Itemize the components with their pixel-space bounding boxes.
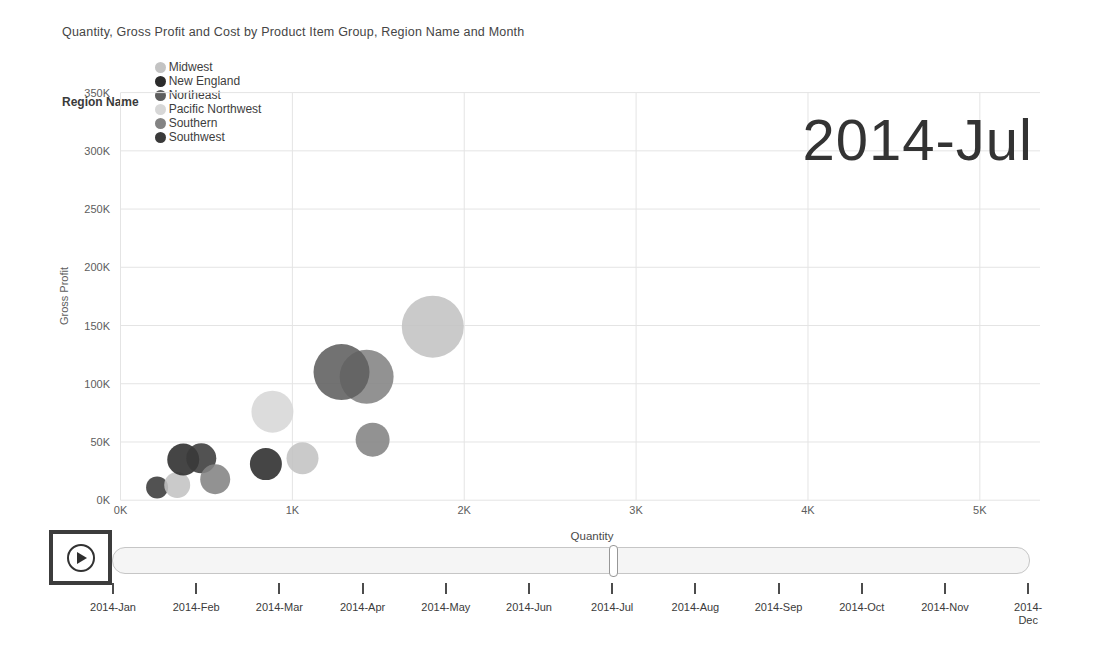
month-label-2014-apr: 2014-Apr [331,601,395,614]
bubble-pacific-northwest[interactable] [251,391,293,433]
month-label-2014-nov: 2014-Nov [913,601,977,614]
month-label-2014-aug: 2014-Aug [663,601,727,614]
month-label-2014-jul: 2014-Jul [580,601,644,614]
x-tick-label: 0K [114,504,128,516]
y-tick-label: 50K [90,436,110,448]
month-tick [362,583,364,594]
bubble-midwest[interactable] [287,442,319,474]
month-tick [195,583,197,594]
y-tick-label: 200K [84,261,110,273]
month-tick [694,583,696,594]
x-tick-label: 2K [458,504,472,516]
month-label-2014-jan: 2014-Jan [81,601,145,614]
y-axis-title: Gross Profit [58,267,70,325]
x-tick-label: 3K [629,504,643,516]
month-tick [861,583,863,594]
y-tick-label: 150K [84,320,110,332]
play-button[interactable] [49,530,112,585]
y-tick-label: 0K [97,494,111,506]
month-tick [611,583,613,594]
y-tick-label: 100K [84,378,110,390]
x-tick-label: 5K [973,504,987,516]
month-tick [1027,583,1029,594]
month-label-2014-feb: 2014-Feb [164,601,228,614]
x-axis-title: Quantity [571,530,614,542]
x-tick-label: 4K [801,504,815,516]
scatter-chart: 0K50K100K150K200K250K300K350K0K1K2K3K4K5… [0,0,1100,560]
month-tick [944,583,946,594]
bubble-southern[interactable] [200,464,230,494]
month-label-2014-sep: 2014-Sep [747,601,811,614]
play-triangle-icon [77,552,87,564]
month-label-2014-may: 2014-May [414,601,478,614]
month-label-2014-oct: 2014-Oct [830,601,894,614]
play-icon [67,544,95,572]
bubble-new-england[interactable] [250,448,282,480]
bubble-southern[interactable] [356,423,390,457]
y-tick-label: 250K [84,203,110,215]
x-tick-label: 1K [286,504,300,516]
bubble-midwest[interactable] [402,296,464,358]
y-tick-label: 300K [84,145,110,157]
y-tick-label: 350K [84,87,110,99]
play-axis-frame-label: 2014-Jul [803,107,1033,172]
month-tick [528,583,530,594]
month-tick [278,583,280,594]
month-tick [112,583,114,594]
month-label-2014-jun: 2014-Jun [497,601,561,614]
bubble-northeast[interactable] [314,344,370,400]
bubble-midwest[interactable] [164,472,190,498]
play-axis-slider-track[interactable] [112,547,1030,574]
report-canvas: Quantity, Gross Profit and Cost by Produ… [0,0,1100,666]
month-tick [445,583,447,594]
month-label-2014-mar: 2014-Mar [247,601,311,614]
play-axis-slider-handle[interactable] [609,545,618,577]
month-tick [778,583,780,594]
month-label-2014-dec: 2014-Dec [1007,601,1049,627]
